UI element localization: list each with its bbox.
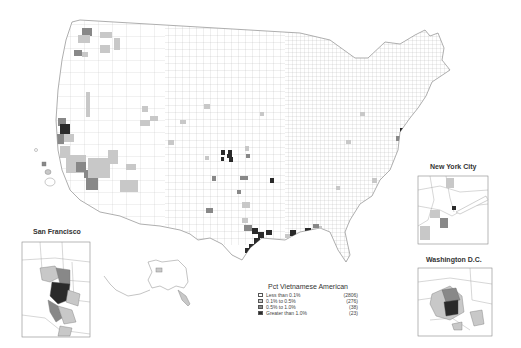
legend-title: Pct Vietnamese American	[258, 283, 358, 290]
washington-dc-inset-title: Washington D.C.	[426, 256, 482, 263]
choropleth-map: New York City Washington D.C. San Franci…	[0, 0, 521, 348]
legend-swatch	[258, 299, 263, 303]
legend-swatch	[258, 293, 263, 297]
new-york-inset-title: New York City	[430, 163, 476, 170]
san-francisco-inset-title: San Francisco	[33, 228, 81, 235]
legend-label: Greater than 1.0%	[266, 310, 349, 316]
legend-item: Greater than 1.0% (23)	[258, 310, 358, 316]
legend-swatch	[258, 311, 263, 315]
legend-count: (23)	[349, 310, 358, 316]
new-york-inset-map	[418, 176, 488, 244]
washington-dc-inset-map	[418, 268, 492, 336]
contiguous-us	[55, 15, 455, 265]
hawaii	[35, 149, 56, 187]
legend-swatch	[258, 305, 263, 309]
map-legend: Pct Vietnamese American Less than 0.1% (…	[258, 283, 358, 316]
san-francisco-inset-map	[22, 242, 90, 337]
alaska	[104, 260, 190, 306]
